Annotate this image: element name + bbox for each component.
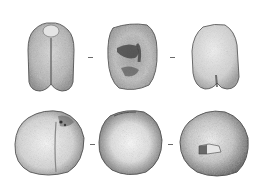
specimen-view-3 [189, 23, 243, 93]
specimen-view-4 [12, 108, 86, 176]
separator-dash [170, 57, 175, 58]
specimen-plate [0, 0, 265, 188]
specimen-view-1 [24, 20, 78, 94]
specimen-view-2 [105, 22, 160, 92]
separator-dash [168, 144, 173, 145]
separator-dash [90, 144, 95, 145]
specimen-view-5 [96, 108, 166, 176]
specimen-view-6 [177, 108, 251, 178]
separator-dash [88, 57, 93, 58]
